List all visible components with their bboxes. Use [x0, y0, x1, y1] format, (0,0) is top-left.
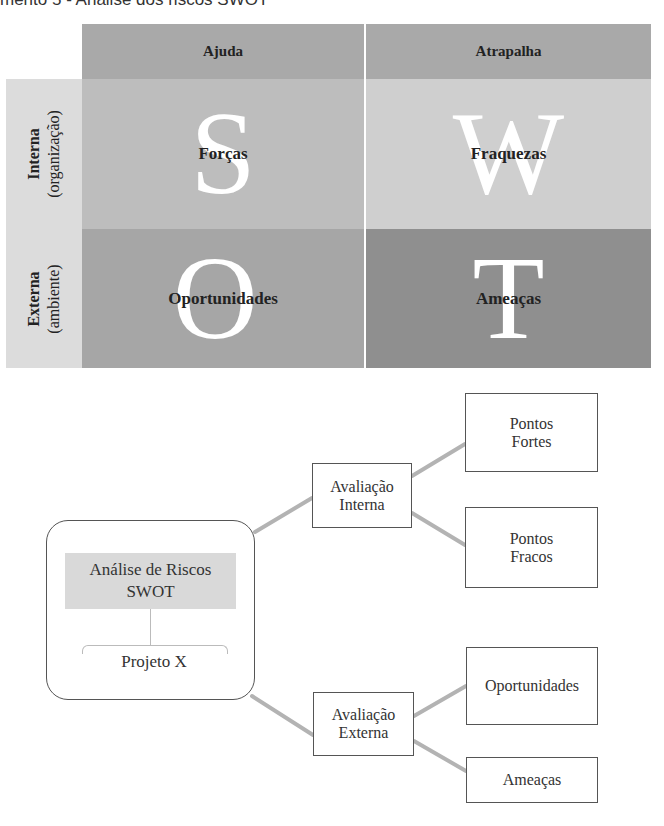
- node-line2: Interna: [330, 496, 394, 514]
- root-title-line2: SWOT: [126, 581, 174, 603]
- root-subtitle: Projeto X: [82, 652, 226, 672]
- node-avaliacao-interna: Avaliação Interna: [312, 463, 412, 528]
- node-ameacas: Ameaças: [466, 757, 598, 803]
- node-pontos-fortes: Pontos Fortes: [465, 393, 598, 472]
- node-line1: Pontos: [510, 415, 554, 433]
- node-line2: Fortes: [510, 433, 554, 451]
- node-line1: Pontos: [510, 530, 554, 548]
- root-title-line1: Análise de Riscos: [90, 559, 212, 581]
- node-line2: Externa: [332, 724, 396, 742]
- node-oportunidades: Oportunidades: [466, 647, 598, 725]
- root-node-title: Análise de Riscos SWOT: [65, 553, 236, 609]
- node-line1: Avaliação: [332, 706, 396, 724]
- root-stem-line: [150, 609, 151, 645]
- cell-label: Ameaças: [476, 289, 541, 309]
- node-line2: Fracos: [510, 548, 554, 566]
- node-line1: Oportunidades: [485, 677, 579, 695]
- node-avaliacao-externa: Avaliação Externa: [313, 692, 414, 756]
- cell-label: Fraquezas: [471, 144, 547, 164]
- cell-label: Forças: [198, 144, 247, 164]
- node-line1: Avaliação: [330, 478, 394, 496]
- cell-label: Oportunidades: [168, 289, 278, 309]
- node-pontos-fracos: Pontos Fracos: [465, 507, 598, 588]
- node-line1: Ameaças: [503, 771, 562, 789]
